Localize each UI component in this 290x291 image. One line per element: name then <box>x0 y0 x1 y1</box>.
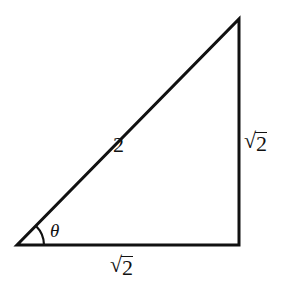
vertical-leg-label: √ 2 <box>244 130 267 155</box>
triangle-diagram: 2 θ √ 2 √ 2 <box>0 0 290 291</box>
angle-arc <box>36 226 44 245</box>
horizontal-leg-label: √ 2 <box>110 254 133 279</box>
radicand: 2 <box>121 256 133 279</box>
angle-theta-label: θ <box>50 221 59 240</box>
radicand: 2 <box>255 132 267 155</box>
hypotenuse-label: 2 <box>113 134 124 156</box>
